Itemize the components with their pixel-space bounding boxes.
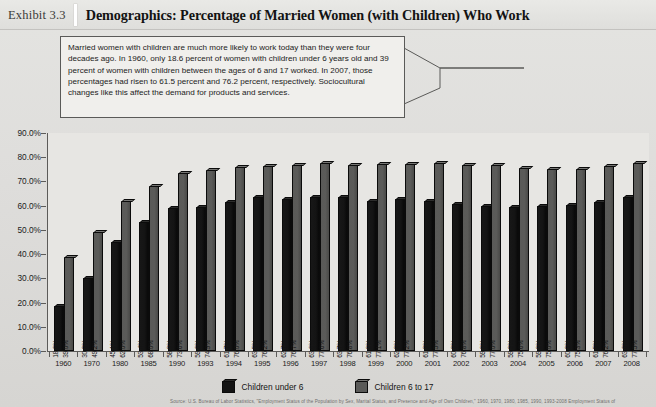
bar-under6[interactable]: 61.7% — [225, 202, 235, 351]
x-axis-tick-label: 1998 — [333, 352, 361, 372]
bar-under6[interactable]: 63.6% — [623, 197, 633, 351]
bar-six17[interactable]: 76.2% — [263, 166, 273, 351]
bar-six17[interactable]: 73.6% — [178, 173, 188, 351]
bar-group: 53.4%68.0% — [135, 133, 163, 351]
x-axis-tick-mark — [419, 352, 420, 357]
callout-pointer-icon — [404, 44, 524, 104]
x-axis-tick-mark — [532, 352, 533, 357]
bar-under6[interactable]: 59.8% — [537, 206, 547, 351]
bar-six17[interactable]: 49.2% — [93, 232, 103, 351]
bar-six17[interactable]: 76.0% — [235, 167, 245, 351]
bar-under6[interactable]: 63.5% — [253, 197, 263, 351]
x-axis-tick-label: 1999 — [362, 352, 390, 372]
x-axis-tick-mark — [504, 352, 505, 357]
bar-group: 59.3%75.6% — [505, 133, 533, 351]
x-axis-tick-label: 2002 — [447, 352, 475, 372]
bar-under6[interactable]: 60.3% — [566, 205, 576, 351]
x-axis-tick-label: 2007 — [589, 352, 617, 372]
x-axis-tick-label: 1993 — [191, 352, 219, 372]
bar-top-face — [405, 162, 419, 165]
bar-six17[interactable]: 39.0% — [64, 257, 74, 351]
bar-six17[interactable]: 76.8% — [462, 165, 472, 351]
bar-group: 62.8%77.2% — [391, 133, 419, 351]
bar-top-face — [64, 255, 78, 258]
bar-under6[interactable]: 62.7% — [282, 199, 292, 351]
bar-group: 18.6%39.0% — [50, 133, 78, 351]
bar-top-face — [320, 161, 334, 164]
x-axis-tick-label: 2004 — [504, 352, 532, 372]
legend-item-six17: Children 6 to 17 — [355, 381, 433, 393]
y-axis-tick-mark — [41, 157, 46, 158]
bar-group: 30.3%49.2% — [78, 133, 106, 351]
x-axis-tick-mark — [333, 352, 334, 357]
bar-six17[interactable]: 77.5% — [633, 163, 643, 351]
bar-six17[interactable]: 75.6% — [519, 168, 529, 351]
bar-six17[interactable]: 76.2% — [604, 166, 614, 351]
bar-under6[interactable]: 60.8% — [452, 204, 462, 351]
bar-six17[interactable]: 77.2% — [405, 164, 415, 351]
x-axis-tick-mark — [191, 352, 192, 357]
y-axis-tick-mark — [41, 254, 46, 255]
legend-item-under6: Children under 6 — [222, 381, 303, 393]
bar-group: 61.9%77.5% — [419, 133, 447, 351]
y-axis-tick-label: 90.0% — [17, 128, 41, 138]
legend-swatch-icon-six17 — [355, 381, 368, 393]
bar-six17[interactable]: 75.3% — [576, 169, 586, 351]
bar-under6[interactable]: 59.6% — [196, 207, 206, 351]
y-axis-tick-mark — [41, 303, 46, 304]
x-axis-tick-mark — [106, 352, 107, 357]
bar-six17[interactable]: 76.8% — [348, 165, 358, 351]
x-axis-tick-mark — [561, 352, 562, 357]
bar-under6[interactable]: 61.9% — [424, 201, 434, 351]
x-axis-tick-mark — [646, 352, 647, 357]
bar-under6[interactable]: 59.3% — [509, 207, 519, 351]
bar-six17[interactable]: 77.0% — [491, 165, 501, 352]
bar-under6[interactable]: 63.7% — [338, 197, 348, 351]
legend-label-under6: Children under 6 — [241, 382, 303, 392]
x-axis-tick-mark — [475, 352, 476, 357]
callout-box: Married women with children are much mor… — [60, 36, 405, 118]
bar-under6[interactable]: 61.5% — [594, 202, 604, 351]
bar-under6[interactable]: 45.1% — [111, 242, 121, 351]
x-axis-tick-label: 1990 — [163, 352, 191, 372]
x-axis-tick-mark — [305, 352, 306, 357]
bar-six17[interactable]: 68.0% — [149, 186, 159, 351]
bar-six17[interactable]: 77.5% — [434, 163, 444, 351]
bar-group: 59.8%75.0% — [533, 133, 561, 351]
bar-six17[interactable]: 74.9% — [206, 170, 216, 351]
bar-group: 59.6%74.9% — [192, 133, 220, 351]
bar-six17[interactable]: 75.0% — [547, 169, 557, 351]
bar-six17[interactable]: 77.1% — [377, 164, 387, 351]
bar-under6[interactable]: 59.8% — [481, 206, 491, 351]
exhibit-header: Exhibit 3.3 Demographics: Percentage of … — [0, 0, 656, 30]
bar-under6[interactable]: 63.6% — [310, 197, 320, 351]
source-note-text: Source: U.S. Bureau of Labor Statistics,… — [0, 399, 656, 404]
bar-six17[interactable]: 62.0% — [121, 201, 131, 351]
x-axis-tick-mark — [134, 352, 135, 357]
x-axis-tick-mark — [77, 352, 78, 357]
bar-group: 58.9%73.6% — [164, 133, 192, 351]
bar-under6[interactable]: 61.8% — [367, 201, 377, 351]
bar-six17[interactable]: 77.6% — [320, 163, 330, 351]
bar-group: 59.8%77.0% — [476, 133, 504, 351]
bar-under6[interactable]: 53.4% — [139, 222, 149, 351]
bar-under6[interactable]: 58.9% — [168, 208, 178, 351]
bar-group: 60.8%76.8% — [448, 133, 476, 351]
x-axis-tick-label: 2000 — [390, 352, 418, 372]
x-axis-tick-label: 1970 — [77, 352, 105, 372]
legend-swatch-icon-under6 — [222, 381, 235, 393]
bar-top-face — [235, 165, 249, 168]
y-axis-tick-mark — [41, 181, 46, 182]
bar-top-face — [292, 163, 306, 166]
bar-six17[interactable]: 76.7% — [292, 165, 302, 351]
bar-top-face — [604, 164, 618, 167]
bar-top-face — [547, 167, 561, 170]
bar-top-face — [263, 164, 277, 167]
x-axis-tick-mark — [589, 352, 590, 357]
x-axis-tick-label: 2003 — [475, 352, 503, 372]
bar-under6[interactable]: 62.8% — [395, 199, 405, 351]
y-axis-tick-mark — [41, 206, 46, 207]
y-axis-tick-mark — [41, 133, 46, 134]
x-axis-tick-label: 1996 — [276, 352, 304, 372]
x-axis-tick-mark — [163, 352, 164, 357]
